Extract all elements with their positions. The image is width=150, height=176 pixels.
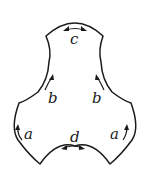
edge-label-d: d <box>70 128 80 146</box>
edge-label-a-left: a <box>24 125 33 143</box>
edge-a-right-arrow <box>123 124 129 140</box>
diagram-canvas: c b b a a d <box>0 0 150 176</box>
edge-label-b-right: b <box>92 89 102 107</box>
edge-label-c: c <box>70 30 79 48</box>
edge-label-b-left: b <box>48 89 58 107</box>
edge-b-right-arrow <box>95 74 104 90</box>
edge-label-a-right: a <box>110 125 119 143</box>
